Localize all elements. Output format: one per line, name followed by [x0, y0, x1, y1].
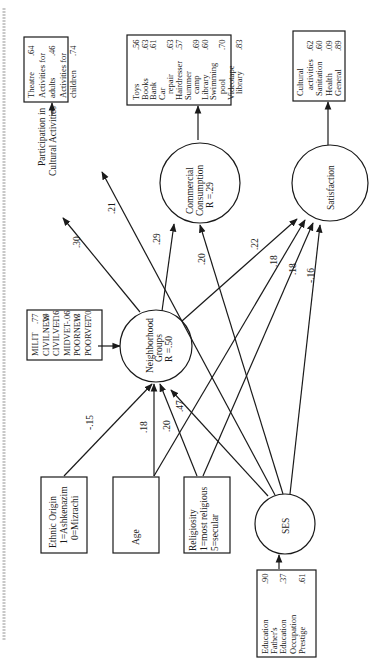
indicator-value: .60 [200, 39, 210, 50]
svg-text:Groups: Groups [154, 334, 164, 362]
indicator-value: .61 [148, 39, 158, 50]
svg-text:Consumption: Consumption [195, 165, 205, 216]
svg-text:Commercial: Commercial [185, 167, 195, 214]
indicator-label: Cultural [295, 68, 305, 96]
indicator-value: .37 [278, 573, 288, 584]
indicator-value: .70 [217, 39, 227, 50]
indicator-value: .57 [174, 39, 184, 50]
path-neighborhood-to-participation [63, 218, 140, 312]
coef-age-neighborhood: .18 [139, 421, 149, 433]
ethnic-origin-box: Ethnic Origin 1=Ashkenazim 0=Mizrachi [41, 477, 87, 553]
svg-text:Age: Age [131, 529, 141, 545]
coef-ses-commercial: .20 [197, 253, 207, 265]
age-box: Age [113, 477, 159, 553]
indicator-label: Sanitation [314, 61, 324, 96]
indicator-label: Activities for [37, 53, 47, 98]
svg-text:1=Ashkenazim: 1=Ashkenazim [59, 486, 69, 544]
indicator-value: .64 [26, 45, 36, 56]
indicator-value: .90 [260, 573, 270, 584]
coef-religiosity-satisfaction: .18 [288, 263, 298, 275]
indicator-value: .39 [41, 313, 51, 324]
satisfaction-node: Satisfaction [292, 145, 368, 221]
svg-text:Religiosity: Religiosity [188, 509, 198, 551]
indicator-value: -.70 [83, 311, 93, 324]
indicator-value: .60 [314, 40, 324, 51]
indicator-label: adults [47, 78, 57, 98]
indicator-label: General [333, 68, 343, 96]
indicator-label: Health [324, 73, 334, 96]
svg-text:Satisfaction: Satisfaction [326, 165, 336, 210]
indicator-value: .61 [297, 573, 307, 584]
participation-label-line2: Cultural Activities [48, 106, 58, 176]
indicator-value: .13 [72, 313, 82, 324]
neighborhood-indicator-list: MILIT.77CIVILNEW.39CIVILVET-.16MIDVET-.0… [30, 311, 93, 356]
coef-religiosity-neighborhood: .20 [162, 420, 172, 432]
coef-ses-neighborhood: .47 [175, 400, 185, 412]
svg-text:R =.29: R =.29 [205, 182, 215, 208]
indicator-label: Activities for [58, 53, 68, 98]
svg-text:5=secular: 5=secular [210, 513, 220, 551]
indicator-value: .89 [333, 40, 343, 51]
indicator-value: .74 [68, 45, 78, 56]
coef-neighborhood-participation: .30 [72, 236, 82, 248]
coef-neighborhood-satisfaction: .22 [250, 238, 260, 250]
indicator-value: -.06 [62, 311, 72, 324]
coef-neighborhood-commercial: .29 [152, 233, 162, 245]
indicator-label: children [68, 69, 78, 98]
path-neighborhood-to-satisfaction [182, 219, 297, 321]
indicator-label: library [234, 71, 244, 94]
coef-ses-satisfaction: -.16 [306, 268, 316, 283]
indicator-label: activities [305, 59, 315, 90]
indicator-value: .62 [305, 40, 315, 51]
indicator-label: MILIT [30, 332, 40, 356]
coef-ses-participation: .21 [107, 202, 117, 214]
svg-text:0=Mizrachi: 0=Mizrachi [70, 495, 80, 540]
indicator-value: .09 [324, 40, 334, 51]
commercial-consumption-node: Commercial Consumption R =.29 [160, 143, 240, 223]
indicator-label: Theatre [26, 72, 36, 98]
path-neighborhood-to-commercial [162, 224, 174, 311]
indicator-label: Prestige [297, 626, 307, 654]
path-diagram: Participation in Cultural Activities Com… [0, 0, 371, 669]
ses-node: SES [255, 494, 315, 554]
svg-text:R =.50: R =.50 [164, 336, 174, 362]
indicator-value: -.16 [51, 311, 61, 324]
indicator-value: .77 [30, 313, 40, 324]
participation-label-line1: Participation in [37, 107, 47, 166]
indicator-value: .46 [47, 45, 57, 56]
indicator-value: .83 [234, 39, 244, 50]
religiosity-box: Religiosity 1=most religious 5=secular [184, 477, 230, 553]
svg-text:SES: SES [281, 518, 291, 534]
coef-ethnic-neighborhood: -.15 [85, 415, 95, 430]
svg-text:Ethnic Origin: Ethnic Origin [48, 496, 58, 548]
coef-age-satisfaction: .18 [269, 255, 279, 267]
indicator-label: MIDVET [62, 322, 72, 356]
svg-text:1=most religious: 1=most religious [199, 486, 209, 551]
participation-node: Participation in Cultural Activities [37, 106, 58, 176]
